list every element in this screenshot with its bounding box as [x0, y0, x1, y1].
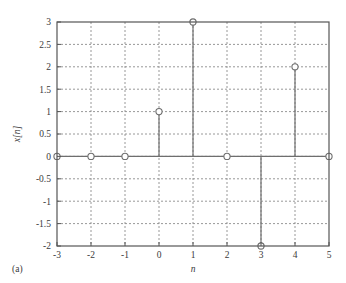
y-tick-label: 0.5	[39, 129, 51, 139]
panel-label: (a)	[12, 264, 23, 275]
x-tick-label: 0	[157, 250, 162, 260]
y-tick-label: 1	[46, 107, 51, 117]
data-point-marker	[292, 64, 298, 70]
y-tick-label: 3	[46, 17, 51, 27]
x-tick-label: 2	[225, 250, 230, 260]
svg-text:x[n]: x[n]	[12, 126, 22, 144]
y-tick-label: 1.5	[39, 85, 51, 95]
x-tick-label: 4	[293, 250, 298, 260]
data-point-marker	[156, 109, 162, 115]
stem-plot-chart: -3-2-1012345 -2-1.5-1-0.500.511.522.53 n…	[0, 0, 346, 283]
y-tick-label: 2.5	[39, 40, 51, 50]
y-tick-label: 2	[46, 62, 51, 72]
chart-background	[0, 0, 346, 283]
y-tick-label: -2	[43, 241, 51, 251]
x-axis-title: n	[191, 264, 196, 274]
x-tick-label: 1	[191, 250, 196, 260]
y-tick-label: -1	[43, 197, 51, 207]
x-tick-label: -1	[121, 250, 129, 260]
data-point-marker	[122, 153, 128, 159]
y-axis-title: x[n]	[12, 126, 22, 144]
y-tick-label: -0.5	[36, 174, 51, 184]
data-point-marker	[224, 153, 230, 159]
data-point-marker	[88, 153, 94, 159]
x-tick-label: 3	[259, 250, 264, 260]
x-tick-label: 5	[327, 250, 332, 260]
x-tick-label: -3	[53, 250, 61, 260]
figure-panel: -3-2-1012345 -2-1.5-1-0.500.511.522.53 n…	[0, 0, 346, 283]
x-tick-label: -2	[87, 250, 95, 260]
y-tick-label: -1.5	[36, 219, 51, 229]
y-tick-label: 0	[46, 152, 51, 162]
